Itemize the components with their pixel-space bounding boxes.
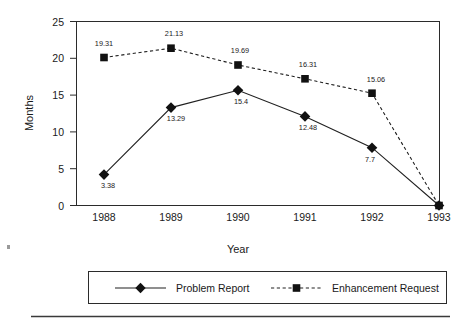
enhancement-request-marker-1991	[301, 75, 309, 83]
data-label-er-1988: 19.31	[95, 39, 113, 48]
x-tick-label-1989: 1989	[159, 211, 183, 223]
data-label-er-1990: 19.69	[231, 46, 249, 55]
enhancement-request-marker-1990	[234, 61, 242, 69]
y-tick-label-0: 0	[58, 200, 64, 212]
legend-label-problem-report: Problem Report	[176, 282, 250, 294]
line-chart-canvas: 25 20 15 10 5 0 1988 1989 1990 1991 1992…	[0, 0, 475, 327]
x-tick-label-1991: 1991	[293, 211, 317, 223]
data-label-er-1992: 15.06	[367, 75, 385, 84]
data-label-pr-1989: 13.29	[167, 114, 185, 123]
data-label-er-1991: 16.31	[299, 60, 317, 69]
enhancement-request-marker-1992	[368, 89, 376, 97]
x-tick-label-1990: 1990	[226, 211, 250, 223]
x-axis-title: Year	[227, 243, 250, 255]
x-axis-tick-labels: 1988 1989 1990 1991 1992 1993	[92, 211, 451, 223]
enhancement-request-marker-1988	[100, 54, 108, 62]
enhancement-request-marker-1989	[167, 44, 175, 52]
y-tick-label-25: 25	[52, 16, 64, 28]
y-tick-label-15: 15	[52, 89, 64, 101]
chart-legend: Problem Report Enhancement Request	[89, 272, 447, 304]
chart-figure: 25 20 15 10 5 0 1988 1989 1990 1991 1992…	[0, 0, 475, 327]
plot-area-frame	[77, 22, 440, 206]
y-axis-ticks	[70, 22, 77, 206]
x-tick-label-1988: 1988	[92, 211, 116, 223]
x-tick-label-1992: 1992	[360, 211, 384, 223]
data-label-pr-1988: 3.38	[101, 181, 115, 190]
y-axis-title: Months	[23, 94, 35, 131]
y-tick-label-10: 10	[52, 126, 64, 138]
data-label-pr-1992: 7.7	[365, 155, 375, 164]
y-tick-label-20: 20	[52, 52, 64, 64]
x-tick-label-1993: 1993	[427, 211, 451, 223]
y-axis-tick-labels: 25 20 15 10 5 0	[52, 16, 64, 212]
y-tick-label-5: 5	[58, 163, 64, 175]
legend-label-enhancement-request: Enhancement Request	[332, 282, 439, 294]
legend-square-marker	[293, 284, 301, 292]
page-artifact-speck	[7, 245, 10, 249]
data-label-pr-1991: 12.48	[299, 123, 317, 132]
data-label-pr-1990: 15.4	[234, 97, 248, 106]
data-label-er-1989: 21.13	[165, 29, 183, 38]
